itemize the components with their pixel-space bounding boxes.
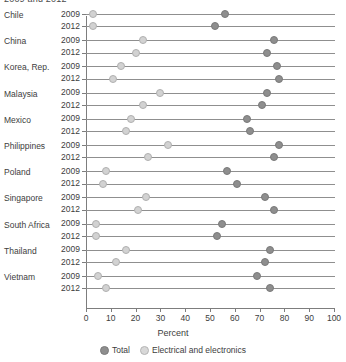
data-point (253, 272, 261, 280)
row-line (86, 40, 335, 41)
year-label: 2012 (54, 153, 80, 162)
data-point (270, 206, 278, 214)
x-tick (160, 308, 161, 312)
year-label: 2012 (54, 258, 80, 267)
x-tick-label: 70 (248, 313, 272, 323)
data-point (233, 180, 241, 188)
data-point (221, 10, 229, 18)
data-point (218, 220, 226, 228)
data-point (243, 115, 251, 123)
data-point (99, 180, 107, 188)
x-tick-label: 50 (198, 313, 222, 323)
x-tick (210, 308, 211, 312)
data-point (263, 89, 271, 97)
country-label: South Africa (4, 220, 50, 231)
data-point (223, 167, 231, 175)
row-line (86, 197, 335, 198)
x-tick (185, 308, 186, 312)
data-point (258, 101, 266, 109)
year-label: 2009 (54, 219, 80, 228)
plot-area: Chile20092012China20092012Korea, Rep.200… (0, 8, 346, 300)
x-tick-label: 10 (99, 313, 123, 323)
data-point (122, 246, 130, 254)
data-point (246, 127, 254, 135)
legend-swatch-total-icon (100, 346, 109, 355)
row-line (86, 105, 335, 106)
data-point (132, 49, 140, 57)
country-label: Vietnam (4, 272, 35, 283)
data-point (112, 258, 120, 266)
x-tick-label: 30 (148, 313, 172, 323)
data-point (263, 49, 271, 57)
data-point (275, 75, 283, 83)
legend-label: Total (112, 345, 130, 355)
year-label: 2009 (54, 167, 80, 176)
x-tick-label: 0 (74, 313, 98, 323)
x-tick-label: 20 (124, 313, 148, 323)
country-label: Korea, Rep. (4, 62, 49, 73)
x-tick-label: 80 (272, 313, 296, 323)
row-line (86, 184, 335, 185)
year-label: 2009 (54, 36, 80, 45)
x-tick (260, 308, 261, 312)
y-axis-line (86, 16, 87, 308)
data-point (273, 62, 281, 70)
legend-item-total[interactable]: Total (100, 345, 130, 355)
row-line (86, 157, 335, 158)
x-tick (334, 308, 335, 312)
year-label: 2009 (54, 10, 80, 19)
country-label: Mexico (4, 115, 31, 126)
row-line (86, 171, 335, 172)
year-label: 2012 (54, 179, 80, 188)
legend-item-ee[interactable]: Electrical and electronics (140, 345, 246, 355)
year-label: 2009 (54, 245, 80, 254)
data-point (109, 75, 117, 83)
data-point (266, 246, 274, 254)
data-point (139, 36, 147, 44)
year-label: 2012 (54, 74, 80, 83)
data-point (142, 193, 150, 201)
legend-swatch-ee-icon (140, 346, 149, 355)
x-tick-label: 100 (322, 313, 346, 323)
row-line (86, 236, 335, 237)
year-label: 2012 (54, 48, 80, 57)
x-tick (86, 308, 87, 312)
year-label: 2009 (54, 114, 80, 123)
data-point (270, 36, 278, 44)
country-label: Thailand (4, 246, 37, 257)
x-tick (235, 308, 236, 312)
row-line (86, 53, 335, 54)
data-point (89, 22, 97, 30)
year-label: 2009 (54, 62, 80, 71)
data-point (102, 284, 110, 292)
data-point (164, 141, 172, 149)
country-label: Poland (4, 167, 30, 178)
data-point (275, 141, 283, 149)
year-label: 2012 (54, 284, 80, 293)
x-tick (136, 308, 137, 312)
chart-root: 2009 and 2012 Chile20092012China20092012… (0, 0, 346, 362)
year-label: 2012 (54, 127, 80, 136)
row-line (86, 288, 335, 289)
data-point (213, 232, 221, 240)
country-label: China (4, 36, 26, 47)
data-point (261, 193, 269, 201)
row-line (86, 224, 335, 225)
data-point (122, 127, 130, 135)
data-point (92, 232, 100, 240)
data-point (261, 258, 269, 266)
data-point (156, 89, 164, 97)
data-point (127, 115, 135, 123)
row-line (86, 262, 335, 263)
data-point (270, 153, 278, 161)
data-point (144, 153, 152, 161)
x-tick (284, 308, 285, 312)
country-label: Malaysia (4, 89, 38, 100)
country-label: Singapore (4, 193, 43, 204)
row-line (86, 14, 335, 15)
year-label: 2009 (54, 193, 80, 202)
row-line (86, 210, 335, 211)
x-tick (309, 308, 310, 312)
x-tick-label: 60 (223, 313, 247, 323)
row-line (86, 119, 335, 120)
